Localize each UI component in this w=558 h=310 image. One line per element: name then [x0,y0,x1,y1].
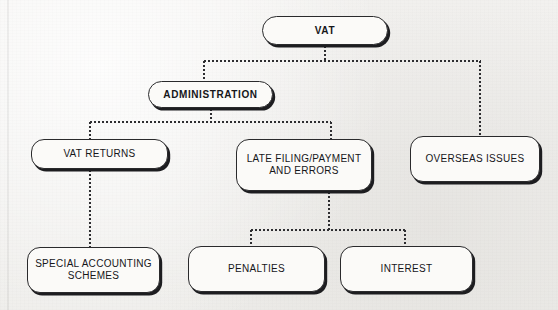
node-interest-label: INTEREST [381,263,433,275]
node-vat-returns-label: VAT RETURNS [63,148,135,160]
node-overseas-issues[interactable]: OVERSEAS ISSUES [410,136,540,182]
node-special-accounting-schemes-label: SPECIAL ACCOUNTING SCHEMES [35,258,152,282]
connector-late-filing-to-interest [404,229,406,247]
connector-bus-level1 [203,60,481,62]
connector-bus-level3 [250,229,405,231]
diagram-canvas: VAT ADMINISTRATION VAT RETURNS LATE FILI… [0,0,558,310]
node-late-filing-label-line2: AND ERRORS [269,165,339,176]
node-overseas-issues-label: OVERSEAS ISSUES [426,153,525,165]
node-administration-label: ADMINISTRATION [163,89,257,101]
node-special-accounting-label-line1: SPECIAL ACCOUNTING [35,258,152,269]
connector-vat-to-administration [203,60,205,82]
connector-bus-level2 [89,121,331,123]
node-vat-label: VAT [315,25,335,37]
connector-late-filing-stem [328,191,330,230]
node-interest[interactable]: INTEREST [340,246,473,292]
connector-vat-to-overseas-issues [479,60,481,137]
node-special-accounting-label-line2: SCHEMES [68,270,120,281]
node-late-filing-label-line1: LATE FILING/PAYMENT [247,153,362,164]
connector-late-filing-to-penalties [250,229,252,247]
connector-administration-stem [210,108,212,122]
node-special-accounting-schemes[interactable]: SPECIAL ACCOUNTING SCHEMES [27,247,160,293]
page-gutter-edge [7,0,9,310]
node-late-filing-payment-and-errors[interactable]: LATE FILING/PAYMENT AND ERRORS [236,139,372,191]
node-administration[interactable]: ADMINISTRATION [148,81,273,108]
node-late-filing-label: LATE FILING/PAYMENT AND ERRORS [247,153,362,177]
connector-administration-to-vat-returns [89,121,91,140]
connector-administration-to-late-filing [330,121,332,140]
node-penalties[interactable]: PENALTIES [188,246,325,292]
node-vat[interactable]: VAT [262,16,388,45]
node-vat-returns[interactable]: VAT RETURNS [31,139,168,169]
node-penalties-label: PENALTIES [228,263,285,275]
connector-vat-returns-to-special-accounting-schemes [89,169,91,248]
